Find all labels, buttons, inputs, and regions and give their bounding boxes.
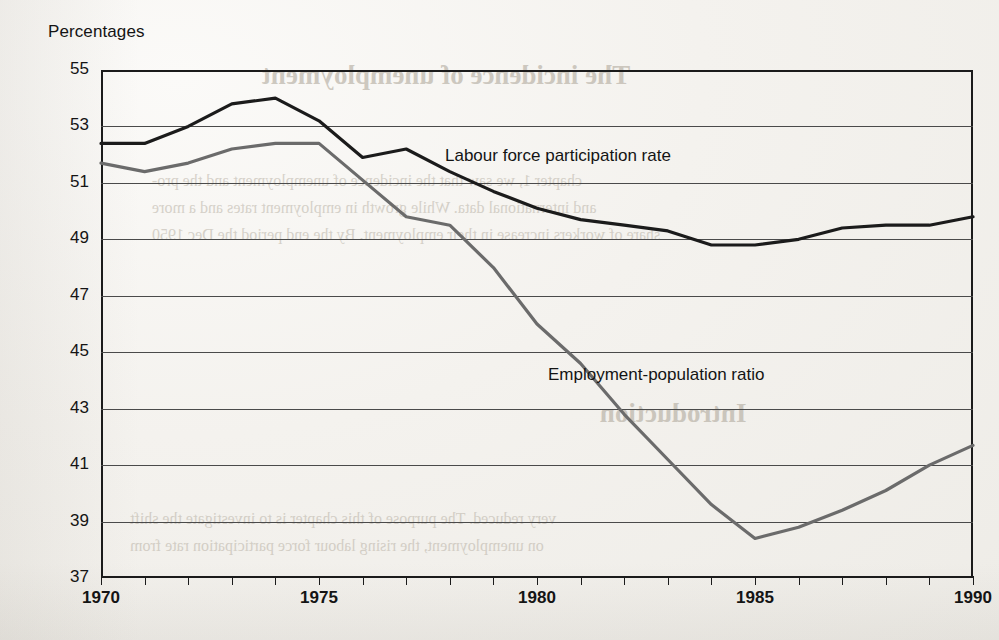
line-employment-population-ratio — [101, 143, 973, 538]
series-label-employment-population-ratio: Employment-population ratio — [548, 365, 764, 385]
series-label-labour-force-participation-rate: Labour force participation rate — [445, 146, 671, 166]
line-labour-force-participation-rate — [101, 98, 973, 245]
chart-figure: Percentages 55535149474543413937 1970197… — [0, 0, 999, 640]
series-lines — [0, 0, 999, 640]
